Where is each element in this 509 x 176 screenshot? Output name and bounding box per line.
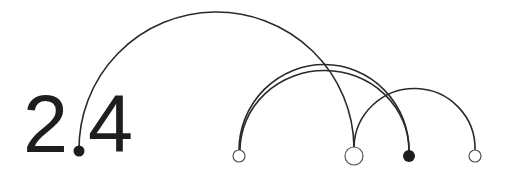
arc-decimal-to-node-b (79, 12, 354, 151)
node-a-open-circle (233, 150, 245, 162)
arc-diagram (0, 0, 509, 176)
decimal-point-dot (74, 146, 85, 157)
arc-node-b-to-node-d (354, 88, 475, 150)
arc-node-a-to-node-c-outer (239, 65, 409, 151)
node-b-open-circle (345, 147, 363, 165)
arc-node-a-to-node-c-inner (240, 71, 409, 151)
version-logo: 2 4 (0, 0, 509, 176)
node-c-filled-dot (403, 150, 415, 162)
node-d-open-circle (469, 150, 481, 162)
